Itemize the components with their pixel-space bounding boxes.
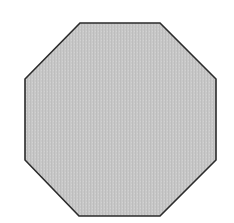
octagon-shape <box>25 23 216 216</box>
diagram-canvas <box>0 0 234 223</box>
